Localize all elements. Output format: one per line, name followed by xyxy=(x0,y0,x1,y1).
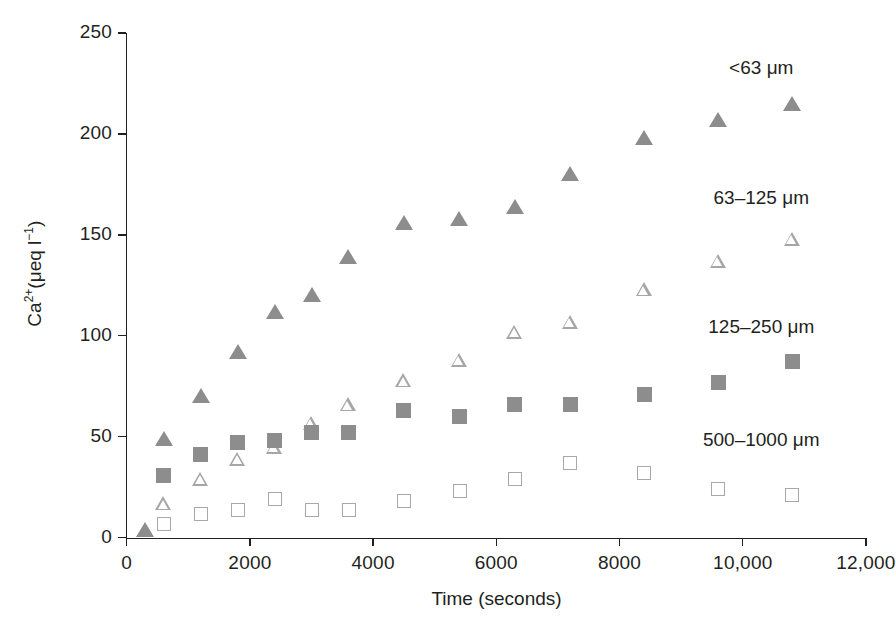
y-axis-line xyxy=(126,33,127,539)
x-axis-tick-label: 10,000 xyxy=(683,552,803,574)
data-point-filled-triangle xyxy=(303,287,321,302)
series-label: 500–1000 μm xyxy=(703,429,820,451)
x-axis-tick-label: 12,000 xyxy=(806,552,896,574)
data-point-filled-square xyxy=(637,387,652,402)
data-point-filled-triangle xyxy=(395,215,413,230)
x-axis-tick xyxy=(742,538,743,546)
data-point-filled-square xyxy=(230,435,245,450)
x-axis-tick-label: 6000 xyxy=(436,552,556,574)
data-point-open-square xyxy=(194,507,208,521)
scatter-chart: 050100150200250 0200040006000800010,0001… xyxy=(0,0,896,635)
data-point-filled-triangle xyxy=(506,199,524,214)
data-point-open-square xyxy=(711,482,725,496)
data-point-filled-square xyxy=(341,425,356,440)
x-axis-tick xyxy=(372,538,373,546)
data-point-open-triangle xyxy=(340,397,356,411)
series-label: <63 μm xyxy=(729,57,793,79)
data-point-filled-triangle xyxy=(155,431,173,446)
y-axis-tick xyxy=(118,436,126,437)
x-axis-tick-label: 2000 xyxy=(190,552,310,574)
y-axis-tick xyxy=(118,133,126,134)
x-axis-tick-label: 4000 xyxy=(313,552,433,574)
data-point-open-triangle xyxy=(506,325,522,339)
x-axis-tick xyxy=(619,538,620,546)
x-axis-tick xyxy=(126,538,127,546)
data-point-open-square xyxy=(453,484,467,498)
data-point-filled-triangle xyxy=(339,249,357,264)
y-axis-tick-label: 250 xyxy=(52,21,112,43)
data-point-open-square xyxy=(508,472,522,486)
data-point-filled-triangle xyxy=(229,344,247,359)
data-point-filled-square xyxy=(193,447,208,462)
data-point-filled-triangle xyxy=(192,388,210,403)
y-axis-tick xyxy=(118,32,126,33)
series-label: 63–125 μm xyxy=(714,187,809,209)
x-axis-tick xyxy=(496,538,497,546)
data-point-open-triangle xyxy=(562,315,578,329)
data-point-open-triangle xyxy=(229,452,245,466)
data-point-filled-square xyxy=(563,397,578,412)
data-point-filled-square xyxy=(711,375,726,390)
data-point-open-square xyxy=(268,492,282,506)
data-point-open-triangle xyxy=(451,353,467,367)
data-point-filled-triangle xyxy=(136,522,154,537)
x-axis-tick-label: 8000 xyxy=(560,552,680,574)
x-axis-title: Time (seconds) xyxy=(126,588,867,610)
x-axis-tick-label: 0 xyxy=(67,552,187,574)
x-axis-tick xyxy=(865,538,866,546)
data-point-filled-triangle xyxy=(783,96,801,111)
data-point-filled-triangle xyxy=(450,211,468,226)
data-point-open-square xyxy=(157,517,171,531)
y-axis-tick-label: 150 xyxy=(52,223,112,245)
y-axis-tick xyxy=(118,537,126,538)
y-axis-tick xyxy=(118,234,126,235)
data-point-open-square xyxy=(231,503,245,517)
data-point-filled-square xyxy=(452,409,467,424)
data-point-filled-triangle xyxy=(709,112,727,127)
y-axis-tick-label: 0 xyxy=(52,526,112,548)
series-label: 125–250 μm xyxy=(708,316,814,338)
data-point-open-square xyxy=(305,503,319,517)
data-point-open-triangle xyxy=(192,472,208,486)
data-point-open-square xyxy=(785,488,799,502)
data-point-open-triangle xyxy=(155,496,171,510)
data-point-open-square xyxy=(563,456,577,470)
data-point-open-triangle xyxy=(395,373,411,387)
data-point-filled-square xyxy=(507,397,522,412)
data-point-open-square xyxy=(342,503,356,517)
data-point-filled-triangle xyxy=(561,166,579,181)
y-axis-title: Ca2+(μeq l−1) xyxy=(22,174,45,374)
data-point-filled-square xyxy=(396,403,411,418)
data-point-open-triangle xyxy=(636,282,652,296)
data-point-open-square xyxy=(397,494,411,508)
data-point-open-triangle xyxy=(784,232,800,246)
data-point-open-triangle xyxy=(710,254,726,268)
data-point-filled-square xyxy=(267,433,282,448)
x-axis-tick xyxy=(249,538,250,546)
y-axis-tick-label: 50 xyxy=(52,425,112,447)
data-point-open-square xyxy=(637,466,651,480)
data-point-filled-triangle xyxy=(635,130,653,145)
y-axis-tick-label: 100 xyxy=(52,324,112,346)
data-point-filled-square xyxy=(304,425,319,440)
data-point-filled-square xyxy=(156,468,171,483)
data-point-filled-triangle xyxy=(266,304,284,319)
y-axis-tick xyxy=(118,335,126,336)
y-axis-tick-label: 200 xyxy=(52,122,112,144)
data-point-filled-square xyxy=(785,354,800,369)
